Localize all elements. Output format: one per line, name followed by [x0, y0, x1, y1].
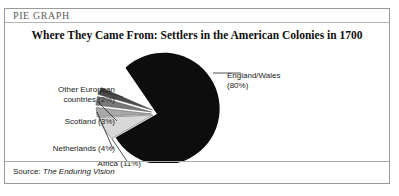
source-divider — [5, 161, 389, 162]
pie-label-other-european: Other European countries (2%) — [23, 85, 115, 105]
pie-label-netherlands: Netherlands (4%) — [13, 144, 115, 154]
figure-header-band: PIE GRAPH — [5, 9, 389, 23]
source-line: Source: The Enduring Vision — [13, 167, 115, 176]
pie-label-england-wales-name: England/Wales — [227, 71, 281, 81]
source-work-title: The Enduring Vision — [43, 167, 115, 176]
pie-label-scotland: Scotland (3%) — [23, 117, 115, 127]
figure-kind-label: PIE GRAPH — [13, 10, 70, 21]
pie-graph-figure: PIE GRAPH Where They Came From: Settlers… — [4, 8, 390, 184]
source-prefix: Source: — [13, 167, 41, 176]
chart-title: Where They Came From: Settlers in the Am… — [5, 29, 389, 41]
pie-label-other-european-line1: Other European — [23, 85, 115, 95]
pie-label-other-european-line2: countries (2%) — [23, 95, 115, 105]
pie-label-england-wales-percent: (80%) — [227, 81, 281, 91]
pie-label-england-wales: England/Wales (80%) — [227, 71, 281, 91]
